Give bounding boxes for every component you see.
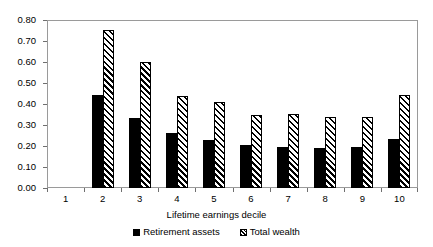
x-tick-label: 9: [344, 192, 381, 208]
bar-retirement-assets: [277, 147, 288, 188]
y-tick-label: 0.60: [18, 57, 37, 67]
x-axis-title: Lifetime earnings decile: [0, 209, 433, 221]
bar-group: [269, 21, 306, 188]
legend-label: Retirement assets: [143, 226, 220, 238]
bar-chart: 0.80 0.70 0.60 0.50 0.40 0.30 0.20 0.10 …: [0, 0, 433, 247]
x-tick-label: 5: [195, 192, 232, 208]
x-tick-label: 10: [381, 192, 418, 208]
bar-total-wealth: [177, 96, 188, 188]
bar-group: [306, 21, 343, 188]
bar-group: [196, 21, 233, 188]
y-tick-label: 0.80: [18, 15, 37, 25]
x-tick-label: 2: [84, 192, 121, 208]
y-tick-label: 0.40: [18, 99, 37, 109]
bar-group: [233, 21, 270, 188]
bar-group: [380, 21, 417, 188]
bar-retirement-assets: [351, 147, 362, 188]
bar-retirement-assets: [166, 133, 177, 188]
y-tick-label: 0.00: [18, 183, 37, 193]
bar-total-wealth: [362, 117, 373, 188]
x-tick-label: 8: [307, 192, 344, 208]
bar-total-wealth: [399, 95, 410, 188]
bar-total-wealth: [140, 62, 151, 188]
bar-total-wealth: [103, 30, 114, 188]
x-tick-label: 1: [47, 192, 84, 208]
bar-retirement-assets: [203, 140, 214, 188]
bar-total-wealth: [288, 114, 299, 188]
legend-label: Total wealth: [250, 226, 300, 238]
x-tick-label: 7: [270, 192, 307, 208]
bar-retirement-assets: [314, 148, 325, 188]
y-tick-label: 0.70: [18, 36, 37, 46]
x-axis: 1 2 3 4 5 6 7 8 9 10: [47, 192, 418, 208]
x-tick-label: 3: [121, 192, 158, 208]
legend-swatch-hatched-icon: [240, 229, 247, 236]
y-tick-label: 0.10: [18, 162, 37, 172]
bar-group: [159, 21, 196, 188]
bar-group: [122, 21, 159, 188]
bar-total-wealth: [325, 117, 336, 188]
chart-legend: Retirement assets Total wealth: [0, 226, 433, 238]
bar-retirement-assets: [388, 139, 399, 188]
bar-retirement-assets: [129, 118, 140, 188]
x-tick-label: 4: [158, 192, 195, 208]
bar-group: [343, 21, 380, 188]
y-tick-label: 0.30: [18, 120, 37, 130]
y-tick-label: 0.20: [18, 141, 37, 151]
legend-entry-retirement-assets: Retirement assets: [133, 226, 220, 238]
x-tick-label: 6: [232, 192, 269, 208]
bar-retirement-assets: [240, 145, 251, 188]
bar-group: [48, 21, 85, 188]
bar-retirement-assets: [92, 95, 103, 188]
bar-group: [85, 21, 122, 188]
legend-entry-total-wealth: Total wealth: [240, 226, 300, 238]
bars-layer: [48, 21, 417, 188]
y-tick-label: 0.50: [18, 78, 37, 88]
bar-total-wealth: [214, 102, 225, 188]
legend-swatch-solid-icon: [133, 229, 140, 236]
bar-total-wealth: [251, 115, 262, 188]
